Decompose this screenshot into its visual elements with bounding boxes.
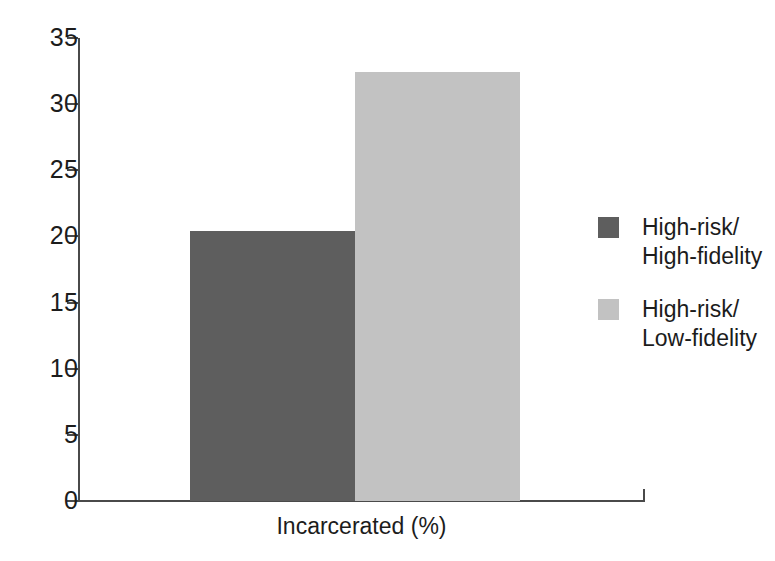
y-axis-tick-label: 35	[20, 25, 78, 50]
legend-item-label: High-risk/ Low-fidelity	[642, 295, 757, 353]
bar-chart: 35302520151050 Incarcerated (%) High-ris…	[0, 0, 775, 561]
y-axis-tick-label: 0	[20, 488, 78, 513]
x-axis-title: Incarcerated (%)	[78, 512, 645, 540]
plot-area	[80, 38, 645, 501]
legend-item: High-risk/ High-fidelity	[598, 213, 773, 271]
y-axis-tick-label: 10	[20, 356, 78, 381]
chart-legend: High-risk/ High-fidelityHigh-risk/ Low-f…	[598, 213, 773, 377]
bar-high-fidelity	[190, 231, 355, 501]
legend-item-label: High-risk/ High-fidelity	[642, 213, 762, 271]
y-axis-tick-label: 20	[20, 223, 78, 248]
y-axis-tick-label: 5	[20, 422, 78, 447]
legend-swatch-icon	[598, 217, 619, 238]
y-axis-tick-label: 15	[20, 290, 78, 315]
y-axis-tick-label: 30	[20, 91, 78, 116]
legend-swatch-icon	[598, 299, 619, 320]
bar-low-fidelity	[355, 72, 520, 501]
y-axis-tick-label: 25	[20, 157, 78, 182]
legend-item: High-risk/ Low-fidelity	[598, 295, 773, 353]
